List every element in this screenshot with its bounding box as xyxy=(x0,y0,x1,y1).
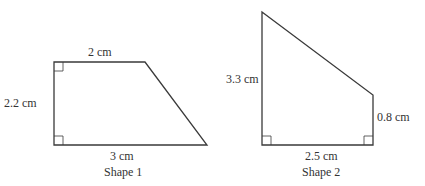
right-angle-marker-bottom-right xyxy=(364,136,373,145)
shape-1-caption: Shape 1 xyxy=(104,165,142,179)
shape-1-outline xyxy=(54,62,207,145)
shape-1-left-length: 2.2 cm xyxy=(4,96,37,110)
shape-1-top-length: 2 cm xyxy=(88,45,112,59)
diagram-canvas xyxy=(0,0,425,186)
right-angle-marker-bottom-left xyxy=(54,136,63,145)
shape-2-right-length: 0.8 cm xyxy=(377,110,410,124)
right-angle-marker-bottom-left xyxy=(262,136,271,145)
right-angle-marker-top-left xyxy=(54,62,63,71)
shape-2-outline xyxy=(262,12,373,145)
shape-2-bottom-length: 2.5 cm xyxy=(305,149,338,163)
shape-2-caption: Shape 2 xyxy=(302,165,340,179)
shape-1-bottom-length: 3 cm xyxy=(110,149,134,163)
shape-2-left-length: 3.3 cm xyxy=(226,72,259,86)
